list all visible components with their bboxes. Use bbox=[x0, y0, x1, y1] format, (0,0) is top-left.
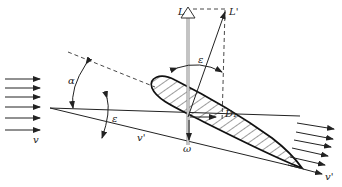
label-v-prime-right: v' bbox=[325, 171, 333, 182]
label-alpha: α bbox=[68, 75, 75, 86]
airfoil-section bbox=[151, 76, 302, 168]
chord-extension-line bbox=[68, 52, 155, 87]
flow-arrow bbox=[296, 132, 333, 139]
label-epsilon-top: ε bbox=[198, 54, 203, 65]
alpha-angle-arc bbox=[73, 64, 86, 108]
lift-arrow-L bbox=[181, 7, 195, 145]
flow-arrow bbox=[288, 165, 322, 174]
velocity-v-line bbox=[50, 108, 300, 116]
incoming-flow-arrows bbox=[5, 79, 40, 130]
airfoil-diagram: v v' α ε L L' ε D₁ ω v' bbox=[0, 0, 342, 187]
label-epsilon-left: ε bbox=[112, 113, 117, 124]
label-L-prime: L' bbox=[228, 6, 238, 17]
flow-arrow bbox=[297, 123, 334, 129]
label-v: v bbox=[33, 134, 39, 145]
flow-arrow bbox=[294, 140, 331, 147]
epsilon-angle-arc-top bbox=[177, 65, 222, 72]
label-omega: ω bbox=[183, 143, 191, 154]
label-v-prime: v' bbox=[137, 132, 145, 143]
label-D1: D₁ bbox=[224, 108, 237, 119]
flow-arrow bbox=[292, 148, 328, 156]
outgoing-flow-arrows bbox=[288, 123, 334, 174]
label-L: L bbox=[177, 6, 185, 17]
epsilon-angle-arc-left bbox=[102, 98, 108, 138]
